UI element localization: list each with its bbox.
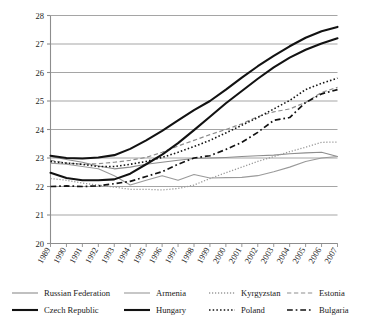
x-tick-label: 1997 bbox=[163, 246, 180, 266]
x-tick-label: 1990 bbox=[51, 246, 68, 266]
x-tick-label: 1992 bbox=[83, 246, 100, 266]
x-tick-label: 1996 bbox=[147, 246, 164, 266]
x-tick-label: 2005 bbox=[290, 246, 307, 266]
y-tick-label: 23 bbox=[36, 153, 45, 163]
legend-label-kyrgyzstan: Kyrgyzstan bbox=[241, 288, 281, 298]
legend-label-czech-republic: Czech Republic bbox=[44, 305, 99, 315]
x-tick-label: 2004 bbox=[274, 245, 292, 265]
line-chart: 202122232425262728 198919901991199219931… bbox=[0, 0, 373, 331]
y-tick-label: 28 bbox=[36, 11, 45, 21]
x-tick-label: 1993 bbox=[99, 246, 116, 266]
x-tick-label: 2000 bbox=[210, 246, 227, 266]
x-tick-label: 2003 bbox=[258, 246, 275, 266]
legend-label-estonia: Estonia bbox=[319, 288, 345, 298]
x-tick-label: 2002 bbox=[242, 246, 259, 266]
legend-label-russian-federation: Russian Federation bbox=[44, 288, 111, 298]
series-line-estonia bbox=[51, 87, 338, 164]
chart-container: 202122232425262728 198919901991199219931… bbox=[0, 0, 373, 331]
x-tick-labels: 1989199019911992199319941995199619971998… bbox=[35, 245, 339, 265]
y-tick-label: 26 bbox=[36, 68, 45, 78]
y-tick-label: 27 bbox=[36, 39, 45, 49]
legend-label-hungary: Hungary bbox=[156, 305, 187, 315]
x-tick-label: 1991 bbox=[67, 246, 84, 266]
y-tick-label: 25 bbox=[36, 96, 45, 106]
x-tick-label: 2006 bbox=[306, 246, 323, 266]
x-tick-label: 2007 bbox=[322, 246, 339, 266]
x-tick-label: 1995 bbox=[131, 246, 148, 266]
legend-label-bulgaria: Bulgaria bbox=[319, 305, 349, 315]
legend-label-poland: Poland bbox=[241, 305, 266, 315]
series-line-russian-federation bbox=[51, 152, 338, 169]
x-tick-label: 1994 bbox=[115, 245, 133, 265]
series-line-czech-republic bbox=[51, 27, 338, 159]
y-axis bbox=[47, 16, 51, 244]
x-axis bbox=[51, 244, 338, 248]
legend-label-armenia: Armenia bbox=[156, 288, 186, 298]
x-tick-label: 1998 bbox=[179, 246, 196, 266]
series-line-bulgaria bbox=[51, 90, 338, 187]
y-tick-label: 21 bbox=[36, 210, 45, 220]
x-tick-label: 1999 bbox=[195, 246, 212, 266]
data-series bbox=[51, 27, 338, 190]
y-tick-labels: 202122232425262728 bbox=[36, 11, 45, 249]
y-tick-label: 24 bbox=[36, 125, 45, 135]
chart-legend: Russian FederationArmeniaKyrgyzstanEston… bbox=[12, 288, 349, 315]
y-tick-label: 22 bbox=[36, 182, 45, 192]
x-tick-label: 2001 bbox=[226, 245, 243, 265]
